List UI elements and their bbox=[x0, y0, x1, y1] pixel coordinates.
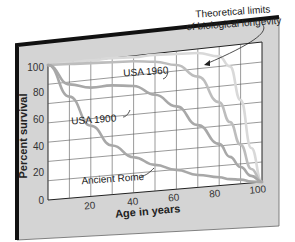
y-axis-label: Percent survival bbox=[17, 94, 29, 179]
y-tick-0: 0 bbox=[38, 195, 44, 206]
y-tick-40: 40 bbox=[33, 141, 45, 152]
x-tick-100: 100 bbox=[249, 183, 267, 195]
y-tick-60: 60 bbox=[33, 114, 45, 125]
y-tick-100: 100 bbox=[27, 62, 44, 73]
y-tick-20: 20 bbox=[33, 167, 45, 178]
survival-chart: 100 80 60 40 20 0 20 40 60 80 100 Age in… bbox=[0, 0, 295, 242]
x-tick-80: 80 bbox=[209, 188, 221, 200]
y-tick-80: 80 bbox=[33, 87, 45, 98]
x-tick-20: 20 bbox=[84, 200, 96, 212]
